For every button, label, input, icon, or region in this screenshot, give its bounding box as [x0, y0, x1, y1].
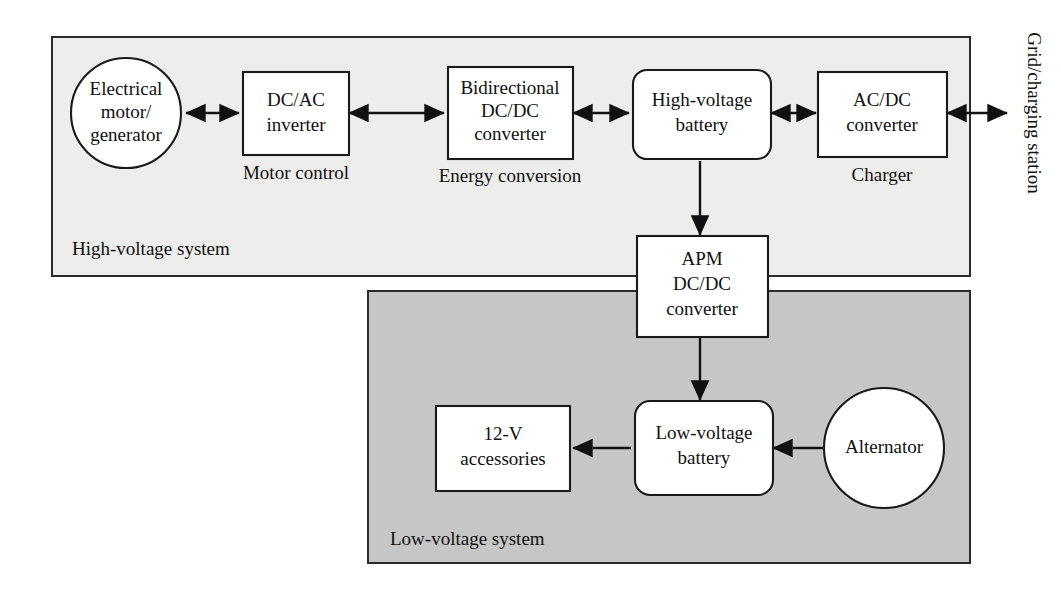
apm-dc-dc-converter-line-1: APM [681, 248, 722, 269]
electrical-motor-generator-line-1: Electrical [90, 78, 163, 99]
node-twelve-volt-accessories[interactable]: 12-V accessories [436, 406, 570, 491]
twelve-volt-accessories-line-2: accessories [460, 448, 545, 469]
dc-ac-inverter-line-2: inverter [266, 114, 326, 135]
grid-charging-station-text: Grid/charging station [1024, 32, 1045, 194]
dc-ac-inverter-caption: Motor control [243, 162, 349, 183]
diagram-canvas: High-voltage system Low-voltage system [0, 0, 1061, 591]
bidirectional-dc-dc-converter-caption: Energy conversion [439, 165, 582, 186]
apm-dc-dc-converter-line-2: DC/DC [673, 273, 731, 294]
node-dc-ac-inverter[interactable]: DC/AC inverter Motor control [243, 72, 349, 183]
low-voltage-battery-line-1: Low-voltage [655, 422, 752, 443]
node-electrical-motor-generator[interactable]: Electrical motor/ generator [71, 58, 181, 168]
ac-dc-converter-caption: Charger [852, 164, 914, 185]
bidirectional-dc-dc-converter-line-3: converter [474, 123, 546, 144]
bidirectional-dc-dc-converter-line-1: Bidirectional [460, 77, 559, 98]
high-voltage-panel-label: High-voltage system [72, 238, 230, 259]
ac-dc-converter-line-2: converter [846, 114, 918, 135]
low-voltage-panel-label: Low-voltage system [390, 528, 545, 549]
high-voltage-battery-line-1: High-voltage [652, 89, 752, 110]
diagram-root: High-voltage system Low-voltage system [0, 0, 1061, 591]
node-low-voltage-battery[interactable]: Low-voltage battery [635, 401, 773, 495]
twelve-volt-accessories-line-1: 12-V [483, 423, 522, 444]
node-high-voltage-battery[interactable]: High-voltage battery [633, 70, 771, 159]
bidirectional-dc-dc-converter-line-2: DC/DC [481, 100, 539, 121]
node-bidirectional-dc-dc-converter[interactable]: Bidirectional DC/DC converter Energy con… [439, 67, 582, 186]
electrical-motor-generator-line-2: motor/ [101, 101, 152, 122]
dc-ac-inverter-line-1: DC/AC [267, 89, 325, 110]
apm-dc-dc-converter-line-3: converter [666, 298, 738, 319]
grid-charging-station-label: Grid/charging station [1024, 32, 1045, 194]
high-voltage-battery-line-2: battery [676, 114, 729, 135]
low-voltage-battery-line-2: battery [678, 447, 731, 468]
electrical-motor-generator-line-3: generator [90, 124, 162, 145]
alternator-line-1: Alternator [845, 436, 924, 457]
node-alternator[interactable]: Alternator [824, 388, 944, 508]
node-apm-dc-dc-converter[interactable]: APM DC/DC converter [637, 236, 768, 337]
ac-dc-converter-line-1: AC/DC [853, 89, 911, 110]
